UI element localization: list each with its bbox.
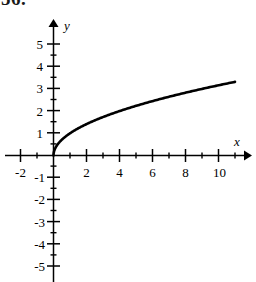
y-tick-label-3: 3 — [37, 81, 44, 96]
problem-number: 56. — [1, 0, 26, 8]
x-tick-label--2: -2 — [15, 165, 26, 180]
y-tick-label-5: 5 — [37, 37, 44, 52]
x-tick-label-10: 10 — [213, 165, 226, 180]
y-tick-label-1: 1 — [37, 126, 44, 141]
y-axis-label: y — [62, 18, 70, 33]
y-axis-arrowhead — [49, 19, 59, 27]
y-tick-label--1: -1 — [34, 170, 45, 185]
x-axis-arrowhead — [244, 151, 252, 161]
y-tick-label--5: -5 — [34, 259, 45, 274]
x-tick-label-6: 6 — [149, 165, 156, 180]
x-tick-label-4: 4 — [116, 165, 123, 180]
graph-figure: 56. -2 2 4 6 8 10 — [0, 0, 256, 282]
y-tick-label-2: 2 — [37, 104, 44, 119]
sqrt-function-curve — [54, 82, 236, 156]
y-tick-label--3: -3 — [34, 215, 45, 230]
y-tick-label-4: 4 — [37, 59, 44, 74]
function-curve-group — [54, 82, 236, 156]
x-tick-label-8: 8 — [182, 165, 189, 180]
x-tick-label-2: 2 — [83, 165, 90, 180]
y-axis-group: 5 4 3 2 1 -1 -2 -3 -4 -5 y — [34, 18, 70, 282]
coordinate-plane-svg: -2 2 4 6 8 10 x — [0, 0, 256, 282]
y-tick-label--4: -4 — [34, 237, 45, 252]
y-tick-label--2: -2 — [34, 192, 45, 207]
x-axis-label: x — [233, 134, 240, 149]
